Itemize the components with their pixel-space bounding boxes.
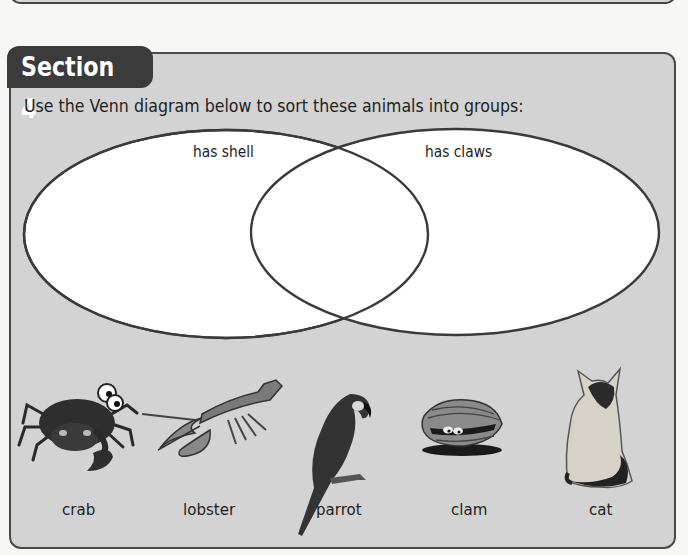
venn-label-has-claws: has claws	[425, 143, 492, 161]
animal-label-crab: crab	[62, 500, 95, 519]
clam-icon[interactable]	[418, 398, 508, 458]
crab-icon[interactable]	[15, 375, 150, 475]
animal-label-lobster: lobster	[183, 500, 235, 519]
animal-label-clam: clam	[451, 500, 487, 519]
animal-label-cat: cat	[589, 500, 612, 519]
lobster-icon[interactable]	[140, 378, 290, 468]
venn-label-has-shell: has shell	[193, 143, 254, 161]
animal-label-parrot: parrot	[316, 500, 362, 519]
cat-icon[interactable]	[560, 365, 635, 490]
